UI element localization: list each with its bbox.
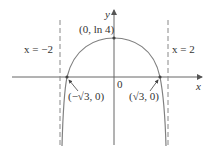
max-point-label: (0, ln 4) xyxy=(79,23,114,36)
left-intercept-label: (−√3, 0) xyxy=(68,90,104,103)
right-intercept-dot xyxy=(158,75,161,78)
y-axis-label: y xyxy=(104,8,110,20)
right-asymptote-label: x = 2 xyxy=(172,43,195,55)
right-intercept-label: (√3, 0) xyxy=(129,90,159,103)
origin-label: 0 xyxy=(117,78,123,90)
function-graph: y x 0 x = −2 x = 2 (0, ln 4) (−√3, 0) (√… xyxy=(0,0,210,156)
left-asymptote-label: x = −2 xyxy=(24,43,53,55)
max-point-dot xyxy=(112,36,115,39)
x-axis-label: x xyxy=(195,80,201,92)
left-intercept-dot xyxy=(65,75,68,78)
